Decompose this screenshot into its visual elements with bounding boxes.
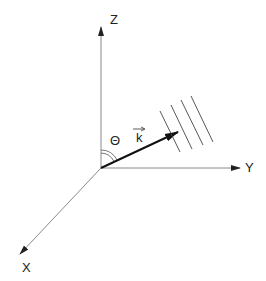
- z-axis-label: Z: [110, 12, 118, 27]
- k-label: k: [136, 130, 143, 145]
- theta-label: Θ: [110, 133, 120, 148]
- wavefront-line: [181, 100, 203, 145]
- wavefront-line: [191, 96, 213, 142]
- angle-arc-inner: [101, 153, 114, 162]
- wave-vector-diagram: Z Y X Θ k: [0, 0, 266, 281]
- y-axis-label: Y: [245, 160, 254, 175]
- wavefront-line: [171, 105, 192, 149]
- x-axis: [20, 168, 101, 254]
- x-axis-label: X: [22, 260, 31, 275]
